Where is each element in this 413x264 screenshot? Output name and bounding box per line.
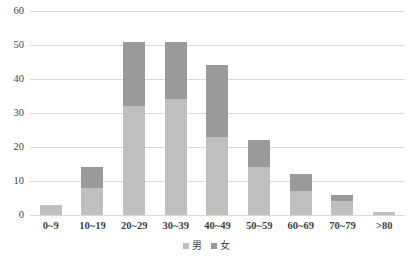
bar-slot <box>72 11 114 215</box>
x-tick-label: 20~29 <box>121 219 147 233</box>
y-axis-labels: 60 50 40 30 20 10 0 <box>0 0 30 226</box>
bar-segment-female[interactable] <box>165 42 187 100</box>
bar-stack[interactable] <box>248 140 270 215</box>
bar-stack[interactable] <box>290 174 312 215</box>
bar-stack[interactable] <box>123 42 145 215</box>
y-tick-label-30: 30 <box>14 108 25 119</box>
x-tick-label: >80 <box>376 219 392 233</box>
x-tick-label: 70~79 <box>329 219 355 233</box>
y-tick-label-60: 60 <box>14 6 25 17</box>
x-tick-label: 0~9 <box>43 219 59 233</box>
chart-legend: 男 女 <box>0 241 413 251</box>
bar-series-container <box>30 11 405 215</box>
bar-stack[interactable] <box>40 205 62 215</box>
bar-segment-male[interactable] <box>248 167 270 215</box>
bar-segment-male[interactable] <box>81 188 103 215</box>
bar-slot <box>363 11 405 215</box>
bar-segment-male[interactable] <box>206 137 228 215</box>
legend-item-female[interactable]: 女 <box>211 241 230 251</box>
bar-segment-female[interactable] <box>81 167 103 187</box>
x-tick-label: 50~59 <box>246 219 272 233</box>
y-tick-label-10: 10 <box>14 176 25 187</box>
bar-segment-male[interactable] <box>373 212 395 215</box>
bar-slot <box>280 11 322 215</box>
bar-segment-female[interactable] <box>123 42 145 107</box>
x-axis-labels: 0~910~1920~2930~3940~4950~5960~6970~79>8… <box>30 219 405 235</box>
bar-segment-female[interactable] <box>290 174 312 191</box>
bar-stack[interactable] <box>331 195 353 215</box>
age-distribution-bar-chart: 60 50 40 30 20 10 0 0~910~1920~2930~3940… <box>0 0 413 264</box>
bar-slot <box>113 11 155 215</box>
bar-segment-male[interactable] <box>123 106 145 215</box>
x-tick-label: 40~49 <box>204 219 230 233</box>
legend-label-male: 男 <box>192 241 202 251</box>
x-tick-label: 30~39 <box>163 219 189 233</box>
x-tick-label: 10~19 <box>79 219 105 233</box>
legend-label-female: 女 <box>220 241 230 251</box>
bar-stack[interactable] <box>165 42 187 215</box>
bar-segment-male[interactable] <box>290 191 312 215</box>
y-tick-label-20: 20 <box>14 142 25 153</box>
bar-segment-female[interactable] <box>331 195 353 202</box>
axis-baseline <box>30 215 405 216</box>
bar-stack[interactable] <box>373 212 395 215</box>
bar-stack[interactable] <box>206 65 228 215</box>
female-swatch-icon <box>211 243 217 249</box>
y-tick-label-40: 40 <box>14 74 25 85</box>
bar-segment-female[interactable] <box>248 140 270 167</box>
legend-item-male[interactable]: 男 <box>183 241 202 251</box>
bar-segment-male[interactable] <box>331 201 353 215</box>
bar-slot <box>238 11 280 215</box>
male-swatch-icon <box>183 243 189 249</box>
y-tick-label-50: 50 <box>14 40 25 51</box>
y-tick-label-0: 0 <box>19 210 24 221</box>
x-tick-label: 60~69 <box>288 219 314 233</box>
bar-stack[interactable] <box>81 167 103 215</box>
bar-slot <box>197 11 239 215</box>
bar-segment-male[interactable] <box>40 205 62 215</box>
bar-segment-female[interactable] <box>206 65 228 136</box>
bar-slot <box>155 11 197 215</box>
bar-slot <box>322 11 364 215</box>
bar-slot <box>30 11 72 215</box>
bar-segment-male[interactable] <box>165 99 187 215</box>
